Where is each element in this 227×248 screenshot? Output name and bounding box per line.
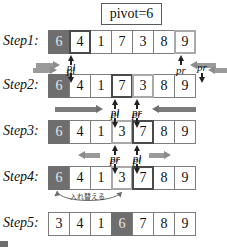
pointer-label: pl	[125, 153, 149, 164]
step-row-5: Step5: 3 4 1 6 7 8 9	[0, 212, 227, 238]
caret-down-icon	[68, 77, 74, 83]
caret-down-icon	[134, 168, 140, 174]
array-cell: 7	[111, 74, 133, 98]
step-label-5: Step5:	[3, 215, 47, 231]
array-cell: 9	[174, 120, 196, 144]
step-label-1: Step1:	[3, 33, 47, 49]
cross-left-arrow-icon	[78, 151, 100, 159]
cross-right-arrow-icon	[149, 151, 171, 159]
quicksort-partition-figure: pivot=6 Step1: 6 4 1 7 3 8 9 pl pr pl	[0, 0, 227, 248]
caret-down-icon	[134, 122, 140, 128]
pivot-box: pivot=6	[101, 3, 162, 25]
arrow-head	[78, 151, 85, 159]
array-cell: 9	[174, 166, 196, 190]
arrow-head	[50, 66, 57, 74]
pointer-pr: pr	[190, 62, 214, 83]
array-row-1: 6 4 1 7 3 8 9	[48, 30, 196, 54]
arrow-shaft	[33, 68, 51, 73]
step-label-4: Step4:	[3, 169, 47, 185]
array-cell: 9	[174, 212, 196, 236]
pointer-pl: pl	[125, 153, 149, 174]
array-cell: 1	[90, 212, 112, 236]
arrow-head	[96, 105, 103, 113]
array-cell: 4	[69, 212, 91, 236]
legend-swatch	[0, 241, 8, 247]
array-cell: 4	[69, 166, 91, 190]
array-cell: 6	[48, 30, 70, 54]
array-cell: 6	[48, 166, 70, 190]
array-cell: 1	[90, 74, 112, 98]
step-row-1: Step1: 6 4 1 7 3 8 9	[0, 30, 227, 56]
array-cell: 8	[153, 120, 175, 144]
array-cell: 4	[69, 120, 91, 144]
array-cell: 8	[153, 30, 175, 54]
scan-left-arrow-icon	[152, 105, 196, 113]
array-cell: 8	[153, 212, 175, 236]
arrow-head	[152, 105, 159, 113]
pointer-pr: pr	[125, 107, 149, 128]
arrow-shaft	[149, 153, 165, 158]
array-cell: 9	[174, 30, 196, 54]
arrow-shaft	[55, 107, 97, 112]
caret-down-icon	[112, 122, 118, 128]
arrow-head	[164, 151, 171, 159]
arrow-shaft	[214, 68, 227, 73]
pivot-label: pivot=6	[110, 6, 154, 22]
array-cell: 6	[111, 212, 133, 236]
pointer-pr: pr	[103, 153, 127, 174]
caption-sliver	[0, 241, 227, 248]
pointer-pl: pl	[103, 107, 127, 128]
array-row-5: 3 4 1 6 7 8 9	[48, 212, 196, 236]
array-cell: 7	[111, 30, 133, 54]
array-cell: 8	[153, 74, 175, 98]
pointer-label: pl	[103, 107, 127, 118]
scan-right-arrow-icon	[33, 66, 57, 74]
arrow-shaft	[158, 107, 196, 112]
arrow-shaft	[84, 153, 100, 158]
caret-down-icon	[199, 77, 205, 83]
step-label-2: Step2:	[3, 77, 47, 93]
scan-right-arrow-icon	[55, 105, 103, 113]
pointer-label: pl	[59, 62, 83, 73]
pointer-label: pr	[190, 62, 214, 73]
array-cell: 3	[132, 74, 154, 98]
pointer-pl: pl	[59, 62, 83, 83]
step-label-3: Step3:	[3, 123, 47, 139]
pointer-label: pr	[125, 107, 149, 118]
caret-down-icon	[112, 168, 118, 174]
pointer-label: pr	[103, 153, 127, 164]
array-cell: 3	[48, 212, 70, 236]
array-cell: 4	[69, 30, 91, 54]
swap-annotation-label: 入れ替える	[70, 191, 105, 201]
array-cell: 7	[132, 212, 154, 236]
array-cell: 6	[48, 120, 70, 144]
array-cell: 1	[90, 30, 112, 54]
array-cell: 3	[132, 30, 154, 54]
array-cell: 8	[153, 166, 175, 190]
